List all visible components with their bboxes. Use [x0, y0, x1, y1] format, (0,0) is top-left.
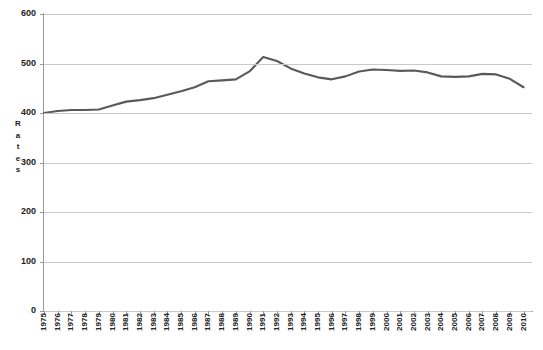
x-axis-tick-label: 2001: [395, 309, 404, 335]
x-axis-tick-label: 2009: [505, 309, 514, 335]
x-axis-tick-label: 1979: [94, 309, 103, 335]
x-axis-tick-label: 1976: [53, 309, 62, 335]
x-axis-tick-label: 2005: [450, 309, 459, 335]
x-axis-tick-label: 1993: [286, 309, 295, 335]
y-axis-title-letter: t: [12, 141, 24, 153]
x-axis-tick-label: 1999: [368, 309, 377, 335]
x-axis-tick-label: 1982: [135, 309, 144, 335]
y-axis-tick-label: 400: [0, 107, 36, 117]
x-axis-tick-label: 1978: [80, 309, 89, 335]
y-axis-tick-label: 600: [0, 8, 36, 18]
x-axis-tick-label: 1989: [231, 309, 240, 335]
y-axis-title-letter: a: [12, 130, 24, 142]
x-axis-tick-label: 1997: [340, 309, 349, 335]
gridline: [44, 14, 532, 15]
y-axis-tick-label: 100: [0, 256, 36, 266]
x-axis-tick-label: 1994: [299, 309, 308, 335]
y-axis-title-letter: s: [12, 164, 24, 176]
gridline: [44, 64, 532, 65]
y-axis-tick-label: 500: [0, 58, 36, 68]
chart-container: 0100200300400500600 Rates 19751976197719…: [0, 0, 543, 350]
x-axis-tick-label: 1991: [258, 309, 267, 335]
x-axis-tick-label: 1985: [176, 309, 185, 335]
gridline: [44, 163, 532, 164]
x-axis-tick-label: 2002: [409, 309, 418, 335]
x-axis-tick-label: 1981: [121, 309, 130, 335]
x-axis-tick-label: 1986: [190, 309, 199, 335]
x-axis-tick-label: 1984: [162, 309, 171, 335]
x-axis-tick-label: 1992: [272, 309, 281, 335]
x-axis-tick-label: 2010: [519, 309, 528, 335]
x-axis-tick-label: 2003: [423, 309, 432, 335]
gridline: [44, 262, 532, 263]
x-axis-tick-label: 1996: [327, 309, 336, 335]
y-axis-title: Rates: [12, 118, 24, 176]
gridline: [44, 212, 532, 213]
x-axis-tick-label: 1990: [245, 309, 254, 335]
plot-area: [44, 14, 532, 311]
x-axis-tick-label: 1987: [203, 309, 212, 335]
y-axis-tick-label: 200: [0, 206, 36, 216]
x-axis-tick-label: 1998: [354, 309, 363, 335]
x-axis-tick-label: 2000: [382, 309, 391, 335]
x-axis-tick-label: 1988: [217, 309, 226, 335]
y-axis-title-letter: R: [12, 118, 24, 130]
x-axis-title: [0, 344, 543, 350]
x-axis-tick-label: 1975: [39, 309, 48, 335]
x-axis-tick-label: 1980: [108, 309, 117, 335]
x-axis-tick-label: 1983: [149, 309, 158, 335]
x-axis-tick-label: 2007: [477, 309, 486, 335]
x-axis-tick-label: 2004: [436, 309, 445, 335]
x-axis-tick-label: 2006: [464, 309, 473, 335]
x-axis-tick-label: 1977: [66, 309, 75, 335]
y-axis-title-letter: e: [12, 153, 24, 165]
x-axis-tick-label: 2008: [491, 309, 500, 335]
x-axis-tick-label: 1995: [313, 309, 322, 335]
gridline: [44, 113, 532, 114]
